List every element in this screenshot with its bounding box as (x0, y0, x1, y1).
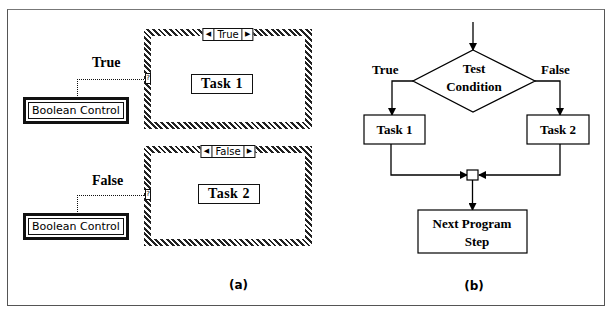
false-branch-connector (535, 81, 560, 115)
task-1-merge-connector (391, 144, 467, 175)
decision-text-line1: Test (463, 61, 486, 76)
next-step-text-line1: Next Program (433, 216, 512, 231)
task-1-text: Task 1 (376, 122, 412, 137)
true-branch-connector (392, 81, 413, 115)
panel-b-caption: (b) (464, 279, 484, 293)
next-step-text-line2: Step (465, 234, 490, 249)
task-2-text: Task 2 (540, 122, 576, 137)
task-2-merge-connector (479, 144, 560, 175)
false-branch-label: False (541, 62, 570, 77)
merge-junction (467, 170, 478, 180)
decision-text-line2: Condition (446, 79, 502, 94)
panel-b-flowchart: Test Condition True False Task 1 Task 2 … (0, 0, 613, 315)
true-branch-label: True (372, 62, 399, 77)
